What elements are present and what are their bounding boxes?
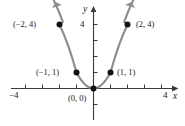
data-point bbox=[57, 22, 63, 28]
x-axis-label: x bbox=[173, 92, 177, 102]
y-axis-label: y bbox=[83, 5, 87, 15]
parabola-figure: y x −4 4 4 (−2, 4) (−1, 1) (0, 0) (1, 1)… bbox=[0, 0, 185, 126]
x-tick-label-pos4: 4 bbox=[163, 91, 168, 100]
y-tick-label-4: 4 bbox=[80, 20, 85, 29]
point-label-2-4: (2, 4) bbox=[136, 20, 154, 29]
data-point bbox=[125, 22, 131, 28]
point-label-neg2-4: (−2, 4) bbox=[13, 20, 36, 29]
point-label-0-0: (0, 0) bbox=[68, 94, 86, 103]
point-label-1-1: (1, 1) bbox=[117, 68, 135, 77]
point-label-neg1-1: (−1, 1) bbox=[36, 68, 59, 77]
y-axis-arrow-icon bbox=[91, 6, 97, 12]
data-point bbox=[91, 86, 97, 92]
data-point bbox=[108, 70, 114, 76]
data-point bbox=[74, 70, 80, 76]
x-tick-label-neg4: −4 bbox=[9, 91, 19, 100]
y-axis-ticks bbox=[94, 25, 98, 105]
